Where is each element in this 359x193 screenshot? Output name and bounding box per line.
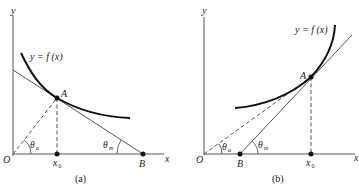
point-A-label: A — [60, 88, 68, 99]
origin-label: O — [3, 154, 10, 165]
svg-text:0: 0 — [312, 163, 315, 169]
theta-a-label: θ a — [222, 142, 231, 153]
point-B — [238, 152, 243, 157]
svg-text:m: m — [109, 145, 114, 151]
point-x0 — [55, 152, 60, 157]
caption-b: (b) — [272, 173, 284, 185]
panel-b: y x y = f (x) A O B x 0 θ a θ m (b) — [196, 5, 359, 185]
x-axis-label: x — [353, 152, 359, 163]
svg-text:x: x — [305, 157, 311, 168]
svg-text:θ: θ — [30, 140, 35, 150]
svg-text:a: a — [36, 145, 39, 151]
y-axis-label: y — [201, 5, 207, 16]
svg-text:a: a — [228, 147, 231, 153]
point-A-label: A — [299, 70, 307, 81]
svg-text:m: m — [264, 145, 269, 151]
x0-label: x 0 — [52, 157, 62, 169]
x0-label: x 0 — [305, 157, 315, 169]
point-A — [55, 96, 60, 101]
svg-text:x: x — [52, 157, 58, 168]
point-B — [141, 152, 146, 157]
tangent-line — [240, 35, 352, 154]
svg-text:θ: θ — [103, 140, 108, 150]
point-B-label: B — [139, 158, 145, 169]
theta-a-label: θ a — [30, 140, 39, 151]
point-x0 — [309, 152, 314, 157]
curve-f — [235, 25, 335, 108]
panel-a: y x y = f (x) A O B x 0 θ a θ m (a) — [3, 5, 170, 185]
point-A — [309, 75, 314, 80]
point-B-label: B — [237, 158, 243, 169]
origin-label: O — [196, 154, 203, 165]
svg-text:0: 0 — [59, 163, 62, 169]
diagram-canvas: y x y = f (x) A O B x 0 θ a θ m (a) — [0, 0, 359, 193]
svg-text:θ: θ — [258, 140, 263, 150]
theta-m-label: θ m — [103, 140, 114, 151]
x-axis-label: x — [164, 153, 170, 164]
dashed-line-OA — [13, 98, 57, 154]
curve-label: y = f (x) — [29, 51, 63, 63]
y-axis-label: y — [10, 5, 16, 16]
curve-label: y = f (x) — [294, 24, 328, 36]
caption-a: (a) — [75, 173, 86, 185]
theta-m-label: θ m — [258, 140, 269, 151]
angle-arc-theta-m — [117, 140, 121, 154]
svg-text:θ: θ — [222, 142, 227, 152]
